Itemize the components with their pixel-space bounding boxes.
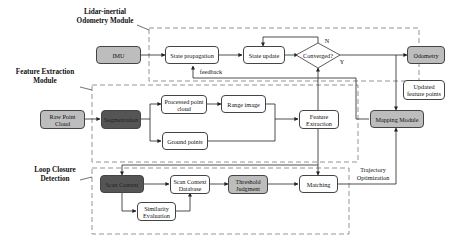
updated-feature-points-label-2: feature points [407, 90, 441, 97]
similarity-evaluation-node: Similarity Evaluation [137, 202, 176, 221]
ground-points-node: Ground points [162, 132, 208, 150]
edge-label-no: N [323, 37, 331, 45]
similarity-evaluation-label-2: Evaluation [143, 212, 170, 219]
range-image-node: Range image [221, 95, 266, 113]
range-image-label: Range image [227, 101, 259, 108]
imu-node: IMU [96, 46, 141, 64]
mapping-module-node: Mapping Module [370, 110, 424, 128]
converged-label: Converged? [298, 52, 338, 60]
processed-point-cloud-label-1: Processed point [164, 98, 203, 105]
edge-scancontext-similarity [122, 193, 136, 211]
scan-context-database-node: Scan Context Database [170, 175, 210, 194]
updated-feature-points-node: Updated feature points [403, 80, 445, 100]
odometry-title-line1: Lidar-inertial [60, 8, 150, 17]
edge-ground-feature [208, 119, 275, 141]
loop-title-line1: Loop Closure [25, 166, 85, 175]
odometry-node: Odometry [407, 46, 445, 64]
edge-label-trajectory-optimization: Trajectory Optimization [350, 166, 396, 181]
feature-title-leader [80, 87, 92, 90]
imu-label: IMU [112, 52, 124, 59]
trajectory-optimization-line1: Trajectory [350, 166, 396, 174]
segmentation-node: Segmentation [101, 110, 141, 129]
feature-extraction-label-1: Feature [310, 113, 329, 120]
feature-title-line1: Feature Extraction [5, 68, 85, 77]
state-update-node: State update [243, 46, 285, 64]
threshold-judgment-label-2: Judgment [236, 185, 260, 192]
trajectory-optimization-line2: Optimization [350, 174, 396, 182]
scan-context-database-label-1: Scan Context [173, 178, 206, 185]
threshold-judgment-label-1: Threshold [235, 178, 260, 185]
feature-module-title: Feature Extraction Module [5, 68, 85, 86]
scan-context-node: Scan Context [100, 175, 144, 193]
loop-title-line2: Detection [25, 175, 85, 184]
edge-seg-ground [150, 119, 161, 141]
segmentation-label: Segmentation [104, 116, 138, 123]
state-propagation-label: State propagation [170, 52, 213, 59]
feature-extraction-label-2: Extraction [306, 120, 332, 127]
edge-similarity-db [176, 193, 190, 211]
edge-range-feature [266, 104, 298, 119]
updated-feature-points-label-1: Updated [414, 83, 435, 90]
matching-label: Matching [307, 181, 331, 188]
state-propagation-node: State propagation [165, 46, 219, 64]
ground-points-label: Ground points [167, 138, 203, 145]
edge-converged-no [263, 37, 318, 46]
processed-point-cloud-node: Processed point cloud [161, 95, 207, 114]
matching-node: Matching [299, 175, 338, 193]
raw-point-cloud-label-2: Cloud [55, 120, 70, 127]
state-update-label: State update [249, 52, 279, 59]
odometry-label: Odometry [413, 52, 438, 59]
edge-label-yes: Y [338, 58, 346, 66]
similarity-evaluation-label-1: Similarity [144, 205, 169, 212]
odometry-module-title: Lidar-inertial Odometry Module [60, 8, 150, 26]
loop-module-title: Loop Closure Detection [25, 166, 85, 184]
edge-seg-processed [141, 104, 161, 119]
raw-point-cloud-node: Raw Point Cloud [40, 110, 85, 129]
scan-context-database-label-2: Database [179, 185, 202, 192]
threshold-judgment-node: Threshold Judgment [228, 175, 268, 194]
raw-point-cloud-label-1: Raw Point [50, 113, 76, 120]
processed-point-cloud-label-2: cloud [177, 105, 191, 112]
feature-extraction-node: Feature Extraction [299, 110, 339, 129]
scan-context-label: Scan Context [105, 181, 138, 188]
edge-label-feedback: feedback [195, 68, 227, 76]
mapping-module-label: Mapping Module [375, 116, 418, 123]
odometry-title-line2: Odometry Module [60, 17, 150, 26]
feature-title-line2: Module [5, 77, 85, 86]
